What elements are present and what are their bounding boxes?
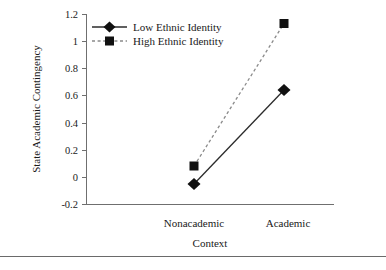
legend-label-high-ethnic-identity: High Ethnic Identity	[133, 35, 224, 47]
legend-marker-diamond-icon	[104, 22, 116, 33]
data-point-high-nonacademic	[190, 162, 199, 171]
line-chart: 1.2 1 0.8 0.6 0.4 0.2 0 -0.2 State Acade…	[0, 0, 386, 270]
data-point-high-academic	[280, 19, 289, 28]
bottom-divider	[0, 256, 386, 257]
x-category-label-academic: Academic	[266, 217, 311, 229]
legend: Low Ethnic Identity High Ethnic Identity	[92, 21, 224, 47]
series-line-low-ethnic-identity	[194, 90, 284, 184]
legend-label-low-ethnic-identity: Low Ethnic Identity	[133, 21, 222, 33]
x-axis-title: Context	[193, 237, 228, 249]
legend-marker-square-icon	[105, 37, 114, 46]
y-tick-marks	[82, 15, 86, 205]
y-tick-labels: 1.2 1 0.8 0.6 0.4 0.2 0 -0.2	[61, 9, 78, 210]
figure-container: 1.2 1 0.8 0.6 0.4 0.2 0 -0.2 State Acade…	[0, 0, 386, 270]
y-tick-label: 0.2	[65, 145, 78, 156]
y-tick-label: -0.2	[61, 199, 78, 210]
y-tick-label: 0	[73, 172, 78, 183]
y-tick-label: 0.6	[65, 90, 78, 101]
y-axis-title: State Academic Contingency	[30, 45, 42, 173]
y-tick-label: 1	[73, 36, 78, 47]
y-tick-label: 0.8	[65, 63, 78, 74]
y-tick-label: 1.2	[65, 9, 78, 20]
x-category-label-nonacademic: Nonacademic	[164, 217, 225, 229]
y-tick-label: 0.4	[65, 118, 79, 129]
